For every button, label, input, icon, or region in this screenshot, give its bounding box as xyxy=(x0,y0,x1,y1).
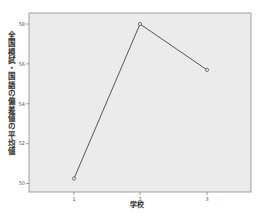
y-axis-label: 全国模試・国語の偏差値の平均値 xyxy=(4,18,16,168)
y-tick-label: 52 xyxy=(19,140,25,146)
data-point-marker xyxy=(138,22,141,25)
y-tick-label: 58 xyxy=(19,21,25,27)
x-tick-label: 1 xyxy=(72,196,75,202)
y-tick-label: 54 xyxy=(19,101,25,107)
y-axis-ticks: 5052545658 xyxy=(19,21,29,187)
line-chart: 5052545658 123 xyxy=(0,0,265,221)
y-tick-label: 56 xyxy=(19,61,25,67)
x-tick-label: 3 xyxy=(205,196,208,202)
y-tick-label: 50 xyxy=(19,180,25,186)
data-point-marker xyxy=(72,177,75,180)
x-axis-label: 学校 xyxy=(130,199,144,209)
data-point-marker xyxy=(205,68,208,71)
plot-area xyxy=(29,13,251,192)
